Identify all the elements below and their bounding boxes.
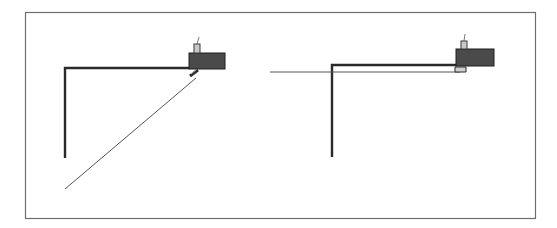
sensor-block bbox=[189, 53, 225, 69]
antenna-icon bbox=[197, 37, 199, 44]
antenna-icon bbox=[464, 34, 465, 41]
sensor-post bbox=[194, 44, 200, 53]
cable-line bbox=[65, 78, 196, 189]
boom-arm bbox=[332, 65, 457, 157]
diagram-canvas bbox=[0, 0, 557, 228]
right-view bbox=[270, 34, 494, 157]
cable-fitting bbox=[455, 67, 466, 72]
sensor-post bbox=[461, 41, 467, 49]
sensor-block bbox=[456, 49, 494, 66]
boom-arm bbox=[65, 68, 190, 158]
figure-frame bbox=[26, 13, 536, 219]
left-view bbox=[65, 37, 225, 189]
